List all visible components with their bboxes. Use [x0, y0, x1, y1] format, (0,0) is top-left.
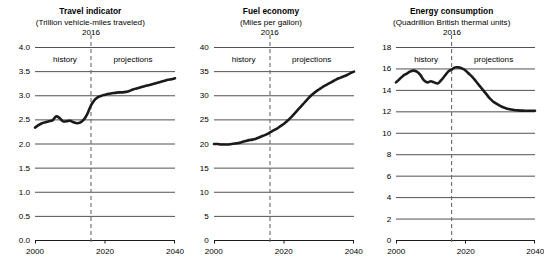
y-axis-tick-label: 4 [364, 193, 391, 202]
y-axis-tick-label: 1.5 [3, 163, 30, 172]
y-axis-tick-label: 20 [182, 139, 209, 148]
y-axis-tick-label: 3.5 [3, 67, 30, 76]
y-axis-tick-label: 0.5 [3, 211, 30, 220]
y-axis-tick-label: 2.5 [3, 115, 30, 124]
y-axis-tick-label: 5 [182, 211, 209, 220]
gridlines [35, 48, 175, 217]
plot-area [35, 47, 175, 240]
x-axis-tick-label: 2040 [526, 247, 544, 256]
y-axis-tick-label: 10 [182, 187, 209, 196]
chart-subtitle: (Miles per gallon) [181, 17, 362, 28]
y-axis-tick-label: 4.0 [3, 43, 30, 52]
y-axis-tick-label: 8 [364, 150, 391, 159]
y-axis-tick-label: 15 [182, 163, 209, 172]
y-axis-tick-label: 3.0 [3, 91, 30, 100]
y-axis-tick-label: 18 [364, 43, 391, 52]
x-axis-tick-label: 2000 [26, 247, 44, 256]
y-axis-tick-label: 30 [182, 91, 209, 100]
gridlines [214, 48, 354, 217]
plot-area [214, 47, 354, 240]
x-axis-tick-label: 2020 [457, 247, 475, 256]
panel-title-block: Energy consumption(Quadrillion British t… [361, 6, 542, 28]
x-axis-tick-label: 2000 [387, 247, 405, 256]
x-axis-tick-label: 2000 [205, 247, 223, 256]
chart-title: Travel indicator [0, 6, 181, 17]
y-axis-tick-label: 2 [364, 214, 391, 223]
data-series-line [214, 72, 354, 145]
y-axis-tick-label: 10 [364, 128, 391, 137]
y-axis-tick-label: 12 [364, 107, 391, 116]
chart-panel: Energy consumption(Quadrillion British t… [361, 0, 542, 269]
y-axis-tick-label: 14 [364, 85, 391, 94]
y-axis-tick-label: 1.0 [3, 187, 30, 196]
chart-subtitle: (Trillion vehicle-miles traveled) [0, 17, 181, 28]
chart-panel: Travel indicator(Trillion vehicle-miles … [0, 0, 181, 269]
x-axis-tick-label: 2020 [96, 247, 114, 256]
chart-title: Fuel economy [181, 6, 362, 17]
y-axis-tick-label: 2.0 [3, 139, 30, 148]
x-axis-tick-label: 2040 [345, 247, 363, 256]
chart-panel: Fuel economy(Miles per gallon)2016histor… [181, 0, 362, 269]
panel-title-block: Fuel economy(Miles per gallon) [181, 6, 362, 28]
y-axis-tick-label: 0 [182, 236, 209, 245]
y-axis-tick-label: 35 [182, 67, 209, 76]
y-axis-tick-label: 0 [364, 236, 391, 245]
y-axis-tick-label: 6 [364, 171, 391, 180]
y-axis-tick-label: 40 [182, 43, 209, 52]
data-series-line [396, 67, 535, 111]
y-axis-tick-label: 16 [364, 64, 391, 73]
plot-area [396, 47, 535, 240]
chart-title: Energy consumption [361, 6, 542, 17]
x-axis-tick-label: 2020 [275, 247, 293, 256]
chart-subtitle: (Quadrillion British thermal units) [361, 17, 542, 28]
y-axis-tick-label: 25 [182, 115, 209, 124]
panel-title-block: Travel indicator(Trillion vehicle-miles … [0, 6, 181, 28]
y-axis-tick-label: 0.0 [3, 236, 30, 245]
